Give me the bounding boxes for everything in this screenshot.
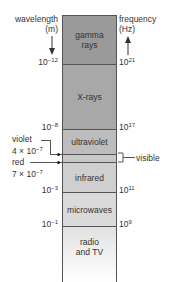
- band-label: gamma: [75, 30, 103, 40]
- band-gamma-rays: gammarays: [63, 16, 116, 65]
- band-label: radio: [76, 237, 103, 247]
- violet-value: 4 × 10−7: [12, 144, 43, 156]
- band-label: infrared: [75, 173, 104, 183]
- violet-dot: [57, 153, 60, 156]
- wavelength-tick: 10−3: [42, 185, 58, 195]
- red-label: red 7 × 10−7: [12, 157, 43, 179]
- violet-name: violet: [12, 134, 43, 144]
- band-infrared: infrared: [63, 163, 116, 193]
- visible-bracket: [117, 152, 137, 164]
- band-ultraviolet: ultraviolet: [63, 130, 116, 155]
- frequency-tick: 1017: [119, 122, 135, 132]
- band-label: X-rays: [77, 92, 102, 102]
- band-radio-tv: radioand TV: [63, 227, 116, 282]
- down-arrow-icon: [49, 36, 55, 56]
- frequency-tick: 1021: [119, 57, 135, 67]
- band-label: microwaves: [67, 205, 112, 215]
- frequency-title-line2: (Hz): [119, 24, 173, 34]
- spectrum-column: gammarays X-rays ultraviolet infrared mi…: [62, 15, 117, 282]
- violet-label: violet 4 × 10−7: [12, 134, 43, 156]
- wavelength-axis-title: wavelength (m): [14, 14, 58, 34]
- band-label: rays: [75, 40, 103, 50]
- wavelength-tick: 10−1: [42, 219, 58, 229]
- frequency-title-line1: frequency: [119, 14, 173, 24]
- red-dot: [57, 161, 60, 164]
- wavelength-tick: 10−8: [42, 122, 58, 132]
- wavelength-title-line1: wavelength: [14, 14, 58, 24]
- violet-leader-v: [50, 140, 51, 154]
- band-visible: [63, 155, 116, 163]
- band-label: and TV: [76, 247, 103, 257]
- band-label: ultraviolet: [71, 137, 107, 147]
- band-microwaves: microwaves: [63, 193, 116, 227]
- band-x-rays: X-rays: [63, 65, 116, 130]
- frequency-tick: 1011: [119, 185, 135, 195]
- frequency-axis-title: frequency (Hz): [119, 14, 173, 34]
- wavelength-title-line2: (m): [14, 24, 58, 34]
- red-value: 7 × 10−7: [12, 167, 43, 179]
- frequency-tick: 109: [119, 219, 132, 229]
- visible-label: visible: [136, 153, 160, 163]
- violet-leader-h2: [50, 154, 62, 155]
- wavelength-tick: 10−12: [38, 57, 58, 67]
- up-arrow-icon: [125, 36, 131, 56]
